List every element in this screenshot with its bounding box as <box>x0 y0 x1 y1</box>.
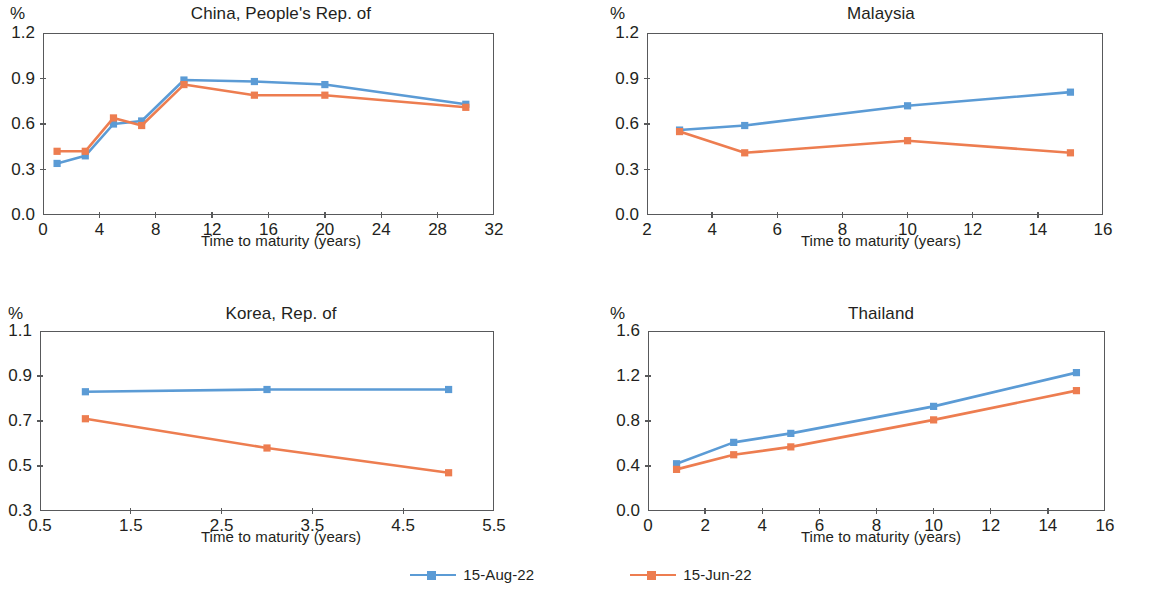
x-axis-tick-label: 10 <box>924 516 943 536</box>
x-axis-tick-label: 6 <box>773 220 782 240</box>
panel-title-thailand: Thailand <box>600 304 1162 324</box>
data-point-marker <box>251 78 258 85</box>
x-axis-tick-label: 12 <box>963 220 982 240</box>
data-point-marker <box>1073 369 1080 376</box>
data-point-marker <box>930 416 937 423</box>
y-axis-tick-label: 0.9 <box>0 69 35 89</box>
x-axis-tick-label: 4.5 <box>391 516 415 536</box>
x-axis-tick-label: 8 <box>151 220 160 240</box>
x-axis-tick-label: 32 <box>485 220 504 240</box>
data-point-marker <box>676 128 683 135</box>
x-axis-tick-label: 12 <box>203 220 222 240</box>
data-point-marker <box>787 443 794 450</box>
legend-label: 15-Aug-22 <box>463 566 534 583</box>
data-point-marker <box>445 386 452 393</box>
legend-item-15-aug-22[interactable]: 15-Aug-22 <box>410 566 534 583</box>
x-axis-tick-label: 0 <box>38 220 47 240</box>
y-axis-tick-label: 0.8 <box>580 411 640 431</box>
data-point-marker <box>904 102 911 109</box>
data-point-marker <box>730 451 737 458</box>
x-axis-caption-malaysia: Time to maturity (years) <box>600 232 1162 249</box>
legend-label: 15-Jun-22 <box>683 566 751 583</box>
chart-figure: % China, People's Rep. of Time to maturi… <box>0 0 1162 595</box>
chart-panel-malaysia: % Malaysia Time to maturity (years) 0.00… <box>600 0 1162 280</box>
y-axis-tick-label: 0.9 <box>579 69 639 89</box>
y-axis-tick-label: 0.0 <box>580 501 640 521</box>
data-point-marker <box>930 403 937 410</box>
x-axis-tick-label: 16 <box>1096 516 1115 536</box>
series-line-15-aug-22 <box>57 80 466 163</box>
x-axis-tick-label: 24 <box>372 220 391 240</box>
y-axis-tick-label: 1.6 <box>580 321 640 341</box>
legend-swatch-icon <box>630 569 676 581</box>
data-point-marker <box>904 137 911 144</box>
y-axis-tick-label: 0.4 <box>580 456 640 476</box>
x-axis-tick-label: 2.5 <box>210 516 234 536</box>
data-point-marker <box>673 466 680 473</box>
y-axis-tick-label: 0.3 <box>579 160 639 180</box>
data-point-marker <box>110 114 117 121</box>
x-axis-tick-label: 14 <box>1028 220 1047 240</box>
x-axis-tick-label: 2 <box>642 220 651 240</box>
x-axis-caption-korea: Time to maturity (years) <box>0 528 562 545</box>
data-point-marker <box>730 439 737 446</box>
series-layer <box>40 331 494 511</box>
legend-item-15-jun-22[interactable]: 15-Jun-22 <box>630 566 751 583</box>
x-axis-tick-label: 2 <box>700 516 709 536</box>
series-line-15-jun-22 <box>680 132 1071 153</box>
chart-panel-korea: % Korea, Rep. of Time to maturity (years… <box>0 296 562 576</box>
data-point-marker <box>741 122 748 129</box>
x-axis-tick-label: 20 <box>315 220 334 240</box>
x-axis-tick-label: 6 <box>815 516 824 536</box>
x-axis-tick-label: 4 <box>707 220 716 240</box>
plot-area-malaysia <box>647 33 1103 215</box>
data-point-marker <box>462 104 469 111</box>
x-axis-tick-label: 0 <box>643 516 652 536</box>
plot-area-korea <box>40 331 494 511</box>
data-point-marker <box>321 81 328 88</box>
data-point-marker <box>321 92 328 99</box>
series-layer <box>648 331 1105 511</box>
y-axis-tick-label: 0.0 <box>579 205 639 225</box>
data-point-marker <box>251 92 258 99</box>
y-axis-tick-label: 1.1 <box>0 321 32 341</box>
legend-square-marker-icon <box>647 571 656 580</box>
x-axis-tick-label: 8 <box>872 516 881 536</box>
x-axis-tick-label: 1.5 <box>119 516 143 536</box>
x-axis-tick-label: 8 <box>838 220 847 240</box>
y-axis-tick-label: 1.2 <box>0 23 35 43</box>
chart-panel-china: % China, People's Rep. of Time to maturi… <box>0 0 562 280</box>
data-point-marker <box>263 444 270 451</box>
data-point-marker <box>1067 149 1074 156</box>
data-point-marker <box>180 81 187 88</box>
data-point-marker <box>82 148 89 155</box>
data-point-marker <box>53 148 60 155</box>
legend-swatch-icon <box>410 569 456 581</box>
y-axis-tick-label: 0.6 <box>0 114 35 134</box>
y-axis-tick-label: 1.2 <box>580 366 640 386</box>
data-point-marker <box>138 122 145 129</box>
x-axis-tick-label: 12 <box>981 516 1000 536</box>
series-line-15-aug-22 <box>680 92 1071 130</box>
data-point-marker <box>445 469 452 476</box>
x-axis-tick-label: 16 <box>1094 220 1113 240</box>
panel-title-malaysia: Malaysia <box>600 4 1162 24</box>
series-line-15-aug-22 <box>677 373 1077 464</box>
y-axis-tick-label: 0.6 <box>579 114 639 134</box>
data-point-marker <box>1067 89 1074 96</box>
panel-title-china: China, People's Rep. of <box>0 4 562 24</box>
series-layer <box>43 33 494 215</box>
data-point-marker <box>741 149 748 156</box>
data-point-marker <box>82 388 89 395</box>
x-axis-tick-label: 4 <box>758 516 767 536</box>
legend-square-marker-icon <box>427 571 436 580</box>
data-point-marker <box>53 160 60 167</box>
data-point-marker <box>1073 387 1080 394</box>
y-axis-tick-label: 0.9 <box>0 366 32 386</box>
x-axis-tick-label: 5.5 <box>482 516 506 536</box>
chart-panel-thailand: % Thailand Time to maturity (years) 0.00… <box>600 296 1162 576</box>
y-axis-tick-label: 0.3 <box>0 160 35 180</box>
panel-title-korea: Korea, Rep. of <box>0 304 562 324</box>
y-axis-tick-label: 1.2 <box>579 23 639 43</box>
data-point-marker <box>82 415 89 422</box>
